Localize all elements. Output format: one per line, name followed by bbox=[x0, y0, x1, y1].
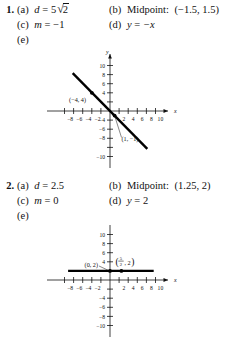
part-d-tag: (d) bbox=[109, 19, 121, 30]
part-c-equals: = bbox=[45, 195, 51, 206]
problem-1: 1. (a) d = 5√2 (b) Midpoint: (−1.5, 1.5)… bbox=[0, 2, 240, 47]
part-c-variable: m bbox=[34, 19, 42, 30]
x-axis-arrow-icon bbox=[164, 109, 169, 113]
part-d-rhs: −x bbox=[143, 19, 155, 30]
graph-2-svg: x −8 −6 −4 −2 2 4 6 8 bbox=[0, 225, 240, 350]
x-tick-label: 10 bbox=[158, 285, 164, 291]
problem-2-number: 2. bbox=[0, 178, 17, 193]
part-a-tag: (a) bbox=[17, 4, 29, 15]
problem-2-part-d: (d) y = 2 bbox=[109, 193, 148, 208]
graph-1-svg: x y −8 −6 −4 −2 2 4 6 bbox=[0, 50, 240, 172]
radicand: 2 bbox=[63, 3, 69, 15]
part-b-tag: (b) bbox=[109, 180, 121, 191]
part-c-tag: (c) bbox=[17, 195, 29, 206]
y-tick-label: 4 bbox=[102, 90, 105, 96]
x-tick-label: −2 bbox=[95, 285, 101, 291]
x-tick-label: 10 bbox=[158, 116, 164, 122]
problem-2-part-c: (c) m = 0 bbox=[17, 193, 109, 208]
graph-1-point-b bbox=[113, 114, 117, 118]
problem-1-number: 1. bbox=[0, 2, 17, 17]
graph-1-point-b-label: (1, −1) bbox=[122, 135, 139, 143]
graph-2-x-ticks: −8 −6 −4 −2 2 4 6 8 10 bbox=[65, 277, 164, 291]
part-d-lhs: y bbox=[127, 19, 132, 30]
part-d-equals: = bbox=[134, 19, 140, 30]
graph-2-point-a bbox=[108, 269, 112, 273]
graph-2-point-a-label: (0, 2) bbox=[85, 261, 98, 269]
part-e-tag: (e) bbox=[17, 34, 29, 45]
y-tick-label: 4 bbox=[102, 259, 105, 265]
part-d-rhs: 2 bbox=[143, 195, 148, 206]
x-tick-label: 2 bbox=[123, 285, 126, 291]
y-tick-label: 6 bbox=[102, 250, 105, 256]
fraction-denominator: 2 bbox=[120, 262, 123, 267]
y-tick-label: −6 bbox=[99, 304, 105, 310]
x-tick-label: 4 bbox=[132, 116, 135, 122]
x-tick-label: 8 bbox=[150, 285, 153, 291]
graph-2-point-b bbox=[120, 269, 124, 273]
problem-1-part-a: (a) d = 5√2 bbox=[17, 2, 109, 17]
problem-1-line-ab: 1. (a) d = 5√2 (b) Midpoint: (−1.5, 1.5) bbox=[0, 2, 240, 17]
x-axis-label: x bbox=[173, 277, 177, 283]
problem-2-line-ab: 2. (a) d = 2.5 (b) Midpoint: (1.25, 2) bbox=[0, 178, 240, 193]
problem-2-part-b: (b) Midpoint: (1.25, 2) bbox=[109, 178, 210, 193]
x-tick-label: −4 bbox=[85, 285, 91, 291]
problem-2-part-a: (a) d = 2.5 bbox=[17, 178, 109, 193]
radical-expression: √2 bbox=[56, 2, 69, 17]
x-axis-arrow-icon bbox=[164, 278, 169, 282]
part-d-equals: = bbox=[134, 195, 140, 206]
part-a-tag: (a) bbox=[17, 180, 29, 191]
part-b-tag: (b) bbox=[109, 4, 121, 15]
y-tick-label: −10 bbox=[96, 323, 105, 329]
y-tick-label: −8 bbox=[99, 135, 105, 141]
x-tick-label: −8 bbox=[67, 285, 73, 291]
y-tick-label: 6 bbox=[102, 81, 105, 87]
x-tick-label: 8 bbox=[150, 116, 153, 122]
problem-2: 2. (a) d = 2.5 (b) Midpoint: (1.25, 2) (… bbox=[0, 178, 240, 223]
problem-2-line-e: (e) bbox=[0, 208, 240, 223]
y-tick-label: 8 bbox=[102, 72, 105, 78]
part-c-value: 0 bbox=[53, 195, 58, 206]
part-a-variable: d bbox=[34, 4, 39, 15]
problem-1-graph: x y −8 −6 −4 −2 2 4 6 bbox=[0, 50, 240, 168]
graph-1-axes: x y bbox=[47, 50, 177, 168]
part-a-equals: = bbox=[42, 180, 48, 191]
part-c-value: −1 bbox=[53, 19, 64, 30]
y-tick-label: 8 bbox=[102, 241, 105, 247]
part-c-variable: m bbox=[34, 195, 42, 206]
problem-2-line-cd: (c) m = 0 (d) y = 2 bbox=[0, 193, 240, 208]
part-c-equals: = bbox=[45, 19, 51, 30]
problem-2-part-e: (e) bbox=[17, 208, 32, 223]
part-a-value: 2.5 bbox=[51, 180, 64, 191]
answer-key-page: 1. (a) d = 5√2 (b) Midpoint: (−1.5, 1.5)… bbox=[0, 0, 240, 353]
problem-1-part-d: (d) y = −x bbox=[109, 17, 155, 32]
y-tick-label: 10 bbox=[99, 63, 105, 69]
label-comma: , bbox=[125, 259, 127, 266]
problem-1-line-e: (e) bbox=[0, 32, 240, 47]
y-tick-label: 10 bbox=[99, 232, 105, 238]
graph-2-point-a-leader bbox=[99, 266, 108, 270]
part-a-equals: = bbox=[42, 4, 48, 15]
part-c-tag: (c) bbox=[17, 19, 29, 30]
graph-2-axes: x bbox=[47, 225, 177, 337]
part-b-label: Midpoint: bbox=[127, 180, 169, 191]
y-axis-label: y bbox=[105, 50, 109, 55]
x-tick-label: −6 bbox=[76, 116, 82, 122]
part-d-tag: (d) bbox=[109, 195, 121, 206]
part-b-value: (−1.5, 1.5) bbox=[175, 4, 219, 15]
x-tick-label: 6 bbox=[141, 285, 144, 291]
label-close-paren: ) bbox=[131, 257, 134, 268]
part-b-label: Midpoint: bbox=[127, 4, 169, 15]
problem-2-graph: x −8 −6 −4 −2 2 4 6 8 bbox=[0, 225, 240, 343]
x-tick-label: 4 bbox=[132, 285, 135, 291]
y-tick-label: −6 bbox=[99, 126, 105, 132]
x-axis-label: x bbox=[173, 108, 177, 114]
label-open-paren: ( bbox=[116, 257, 119, 268]
graph-2-point-b-label: ( 5 2 , 2 ) bbox=[116, 256, 135, 269]
y-tick-label: −4 bbox=[99, 117, 105, 123]
x-tick-label: 6 bbox=[141, 116, 144, 122]
part-d-lhs: y bbox=[127, 195, 132, 206]
x-tick-label: −4 bbox=[85, 116, 91, 122]
problem-1-part-e: (e) bbox=[17, 32, 32, 47]
y-axis-arrow-icon bbox=[108, 54, 112, 59]
part-b-value: (1.25, 2) bbox=[175, 180, 211, 191]
